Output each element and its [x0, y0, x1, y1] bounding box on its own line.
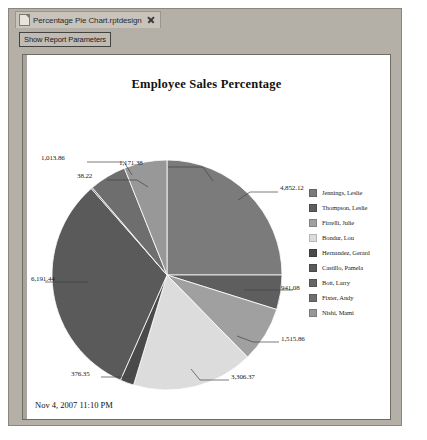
slice-label-38: 38.22 — [77, 172, 92, 180]
slice-label-3306: 3,306.37 — [231, 373, 255, 381]
editor-toolbar: Show Report Parameters — [9, 29, 401, 51]
pie-chart: 1,171.38 1,013.86 38.22 4,852.12 941.08 … — [31, 103, 303, 393]
slice-label-1013: 1,013.86 — [41, 154, 65, 162]
legend-swatch — [309, 264, 317, 272]
legend-item-label: Thompson, Leslie — [322, 204, 367, 211]
slice-label-6191: 6,191.44 — [31, 275, 55, 283]
pie-chart-svg — [31, 103, 303, 393]
legend-item-label: Jennings, Leslie — [322, 189, 362, 196]
legend-swatch — [309, 309, 317, 317]
slice-label-1515: 1,515.86 — [281, 335, 305, 343]
legend-item-label: Castillo, Pamela — [322, 264, 363, 271]
report-preview-canvas[interactable]: Employee Sales Percentage 1,171.38 1,013… — [22, 54, 391, 420]
legend-item: Nishi, Mami — [309, 305, 389, 320]
legend-swatch — [309, 249, 317, 257]
legend-swatch — [309, 279, 317, 287]
slice-label-1171: 1,171.38 — [119, 159, 143, 167]
legend-item: Thompson, Leslie — [309, 200, 389, 215]
legend-item: Bondur, Lou — [309, 230, 389, 245]
legend-swatch — [309, 294, 317, 302]
legend-item: Bott, Larry — [309, 275, 389, 290]
chart-legend: Jennings, LeslieThompson, LeslieFirrelli… — [309, 185, 389, 320]
legend-item: Hernandez, Gerard — [309, 245, 389, 260]
legend-item: Jennings, Leslie — [309, 185, 389, 200]
editor-tab-label: Percentage Pie Chart.rptdesign — [33, 16, 142, 25]
legend-item-label: Bondur, Lou — [322, 234, 354, 241]
legend-swatch — [309, 204, 317, 212]
file-icon — [19, 14, 30, 26]
legend-swatch — [309, 189, 317, 197]
legend-swatch — [309, 219, 317, 227]
legend-item: Fixter, Andy — [309, 290, 389, 305]
legend-item-label: Firrelli, Julie — [322, 219, 354, 226]
chart-title: Employee Sales Percentage — [23, 77, 390, 92]
legend-swatch — [309, 234, 317, 242]
legend-item: Castillo, Pamela — [309, 260, 389, 275]
report-footer-timestamp: Nov 4, 2007 11:10 PM — [35, 400, 113, 410]
legend-item-label: Hernandez, Gerard — [322, 249, 370, 256]
editor-tab-strip: Percentage Pie Chart.rptdesign — [9, 9, 401, 29]
legend-item-label: Nishi, Mami — [322, 309, 354, 316]
pie-slice-group — [52, 160, 282, 390]
show-report-parameters-button[interactable]: Show Report Parameters — [19, 32, 111, 47]
legend-item-label: Bott, Larry — [322, 279, 350, 286]
legend-item-label: Fixter, Andy — [322, 294, 353, 301]
close-icon[interactable] — [146, 15, 156, 25]
canvas-left-gutter — [23, 55, 27, 419]
slice-label-376: 376.35 — [71, 370, 90, 378]
pie-slice — [167, 160, 282, 275]
report-editor-window: Percentage Pie Chart.rptdesign Show Repo… — [8, 8, 402, 426]
legend-item: Firrelli, Julie — [309, 215, 389, 230]
slice-label-941: 941.08 — [281, 284, 300, 292]
editor-tab[interactable]: Percentage Pie Chart.rptdesign — [15, 11, 161, 28]
slice-label-4852: 4,852.12 — [280, 184, 304, 192]
